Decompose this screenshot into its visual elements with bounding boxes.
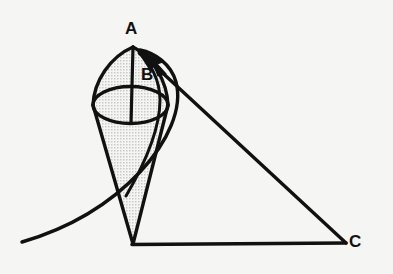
triangle-hypotenuse-edge	[140, 52, 346, 243]
cone-shading	[80, 40, 180, 250]
vertex-label-a: A	[125, 20, 137, 37]
vertex-label-c: C	[349, 233, 361, 250]
geometry-figure: A B C	[0, 0, 393, 274]
triangle-base-edge	[132, 243, 346, 245]
axis-segment-AB	[131, 47, 133, 124]
geometry-canvas	[0, 0, 393, 274]
vertex-label-b: B	[141, 66, 153, 83]
